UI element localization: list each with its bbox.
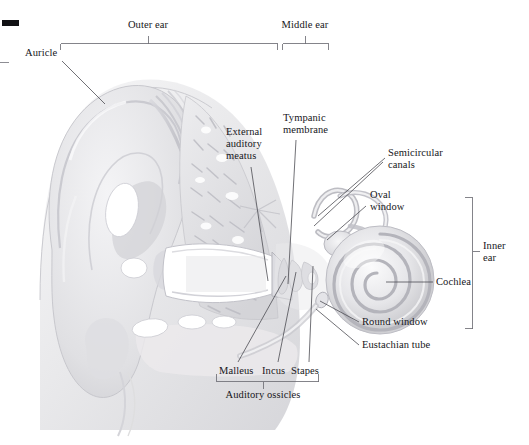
label-external-auditory-meatus-line3: meatus [226, 150, 256, 162]
label-external-auditory-meatus-line2: auditory [226, 138, 262, 150]
label-oval-window-line2: window [370, 201, 404, 213]
bracket-label-middle-ear: Middle ear [265, 19, 345, 31]
label-semicircular-canals-line1: Semicircular [388, 147, 443, 159]
label-incus: Incus [262, 365, 285, 377]
label-semicircular-canals-line2: canals [388, 159, 415, 171]
label-round-window: Round window [362, 316, 428, 328]
bracket-label-inner-ear-line2: ear [483, 252, 496, 264]
label-external-auditory-meatus-line1: External [226, 126, 262, 138]
label-stapes: Stapes [291, 365, 319, 377]
label-cochlea: Cochlea [436, 276, 471, 288]
external-auditory-meatus-canal [163, 244, 275, 303]
label-malleus: Malleus [219, 365, 254, 377]
bracket-label-outer-ear: Outer ear [108, 19, 188, 31]
ear-illustration [0, 0, 529, 445]
label-oval-window-line1: Oval [370, 189, 391, 201]
bracket-label-inner-ear-line1: Inner [483, 240, 506, 252]
label-tympanic-membrane-line2: membrane [283, 124, 328, 136]
label-tympanic-membrane-line1: Tympanic [283, 112, 326, 124]
label-auricle: Auricle [25, 47, 57, 59]
bracket-label-auditory-ossicles: Auditory ossicles [203, 389, 323, 401]
label-eustachian-tube: Eustachian tube [362, 339, 430, 351]
ear-anatomy-figure: Outer ear Middle ear Inner ear Auditory … [0, 0, 529, 445]
